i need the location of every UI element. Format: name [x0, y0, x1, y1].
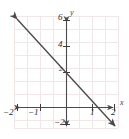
y-tick-label-2: 2	[59, 66, 63, 73]
x-tick-label-neg2: −2	[3, 108, 14, 117]
x-tick-label-neg1: −1	[28, 108, 39, 117]
x-tick-label-1: 1	[90, 108, 95, 117]
y-tick-label-neg2: −2	[54, 118, 65, 127]
x-tick-label-2: 2	[111, 108, 116, 117]
x-axis-label: x	[120, 99, 124, 107]
y-tick-label-6: 6	[58, 13, 63, 22]
y-tick-label-4: 4	[58, 40, 63, 49]
y-axis-label: y	[70, 9, 74, 17]
graph-figure: x y −2 −1 1 2 6 4 2 −2	[0, 0, 129, 139]
